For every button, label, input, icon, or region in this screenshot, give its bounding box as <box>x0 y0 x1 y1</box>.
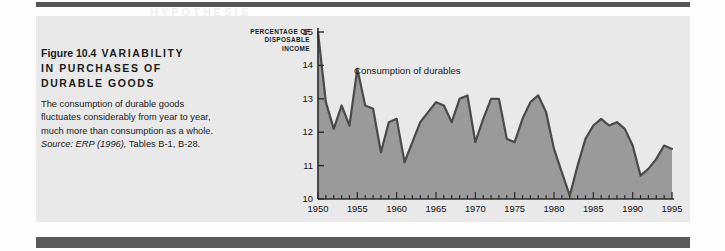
x-axis-tick-label: 1950 <box>298 203 338 214</box>
figure-description-line-1: The consumption of durable goods <box>41 99 184 109</box>
x-axis-tick-label: 1985 <box>573 203 613 214</box>
y-axis-tick-label: 11 <box>291 160 313 171</box>
y-axis-tick-label: 14 <box>291 59 313 70</box>
x-axis-tick-label: 1975 <box>495 203 535 214</box>
x-axis-tick-label: 1960 <box>377 203 417 214</box>
figure-title-line-1: VARIABILITY <box>101 47 184 59</box>
page-rule-top <box>36 2 690 7</box>
figure-title-line-2: IN PURCHASES OF <box>41 62 162 74</box>
figure-source: Source: ERP (1996), Tables B-1, B-28. <box>41 139 200 149</box>
figure-source-tables: Tables B-1, B-28. <box>126 139 200 149</box>
x-axis-tick-label: 1980 <box>534 203 574 214</box>
chart-plot-area <box>248 24 678 214</box>
figure-title-line-3: DURABLE GOODS <box>41 77 155 89</box>
figure-description: The consumption of durable goods fluctua… <box>41 98 246 152</box>
figure-number: Figure 10.4 <box>41 47 96 59</box>
y-axis-tick-label: 12 <box>291 126 313 137</box>
x-axis-tick-label: 1995 <box>652 203 692 214</box>
series-annotation-consumption-of-durables: Consumption of durables <box>354 65 461 76</box>
chart: PERCENTAGE OF DISPOSABLE INCOME Consumpt… <box>248 24 678 214</box>
x-axis-tick-label: 1965 <box>416 203 456 214</box>
y-axis-tick-label: 15 <box>291 26 313 37</box>
x-axis-tick-label: 1970 <box>455 203 495 214</box>
series-area-consumption-of-durables <box>318 32 672 199</box>
figure-title: Figure 10.4VARIABILITY IN PURCHASES OF D… <box>41 46 246 91</box>
figure-description-line-2: fluctuates considerably from year to yea… <box>41 112 211 122</box>
y-axis-tick-label: 13 <box>291 93 313 104</box>
figure-source-prefix: Source: ERP (1996), <box>41 139 126 149</box>
page-rule-bottom <box>36 237 690 248</box>
figure-caption-block: Figure 10.4VARIABILITY IN PURCHASES OF D… <box>41 46 246 152</box>
x-axis-tick-label: 1990 <box>613 203 653 214</box>
figure-description-line-3: much more than consumption as a whole. <box>41 126 213 136</box>
x-axis-tick-label: 1955 <box>337 203 377 214</box>
